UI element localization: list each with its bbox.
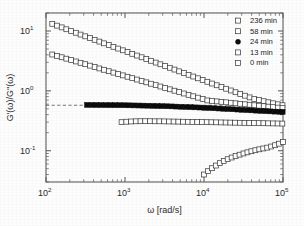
data-point	[158, 62, 163, 67]
data-point	[97, 39, 102, 44]
legend-label-2: 24 min	[250, 37, 273, 46]
data-point	[162, 119, 167, 124]
data-point	[55, 23, 60, 28]
data-point	[242, 120, 247, 125]
y-tick-label-2: 10-1	[20, 144, 36, 156]
data-point	[228, 120, 233, 125]
series-13-min	[119, 119, 285, 126]
data-point	[202, 105, 207, 110]
legend-label-4: 0 min	[250, 58, 269, 67]
data-point	[146, 103, 151, 108]
data-point	[257, 103, 262, 108]
data-point	[172, 88, 177, 93]
data-point	[256, 121, 261, 126]
data-point	[69, 29, 74, 34]
data-point	[127, 103, 132, 108]
data-point	[94, 103, 99, 108]
data-point	[50, 52, 55, 57]
data-point	[183, 105, 188, 110]
data-point	[106, 43, 111, 48]
data-point	[64, 56, 69, 61]
legend-label-1: 58 min	[250, 27, 273, 36]
data-point	[196, 76, 201, 81]
data-point	[218, 120, 223, 125]
data-point	[85, 102, 90, 107]
data-point	[103, 103, 108, 108]
figure-container: 10210310410510110010-1ω [rad/s]G'(ω)/G''…	[0, 0, 304, 226]
data-point	[89, 102, 94, 107]
data-point	[176, 119, 181, 124]
data-point	[148, 119, 153, 124]
data-point	[181, 119, 186, 124]
data-point	[83, 62, 88, 67]
data-point	[261, 121, 266, 126]
data-point	[266, 121, 271, 126]
data-point	[153, 83, 158, 88]
data-point	[261, 99, 266, 104]
data-point	[224, 100, 229, 105]
legend-marker-open	[236, 50, 241, 55]
data-point	[78, 32, 83, 37]
y-tick-label-1: 100	[20, 84, 34, 96]
data-point	[242, 93, 247, 98]
data-point	[280, 109, 285, 114]
data-point	[228, 88, 233, 93]
data-point	[136, 103, 141, 108]
data-point	[134, 77, 139, 82]
data-point	[270, 121, 275, 126]
data-point	[125, 50, 130, 55]
data-point	[197, 105, 202, 110]
data-point	[233, 90, 238, 95]
legend-marker-open	[236, 29, 241, 34]
data-point	[200, 97, 205, 102]
data-point	[200, 120, 205, 125]
data-point	[163, 64, 168, 69]
data-point	[69, 58, 74, 63]
data-point	[130, 51, 135, 56]
data-point	[150, 103, 155, 108]
data-point	[266, 104, 271, 109]
data-point	[141, 103, 146, 108]
data-point	[238, 101, 243, 106]
data-point	[261, 104, 266, 109]
data-point	[186, 92, 191, 97]
y-axis-title: G'(ω)/G''(ω)	[5, 74, 15, 122]
x-tick-label-1: 103	[117, 186, 131, 198]
data-point	[244, 108, 249, 113]
data-point	[254, 108, 259, 113]
data-point	[130, 76, 135, 81]
data-point	[257, 98, 262, 103]
data-point	[55, 53, 60, 58]
data-point	[108, 103, 113, 108]
legend-label-0: 236 min	[250, 16, 277, 25]
data-point	[235, 107, 240, 112]
data-point	[119, 120, 124, 125]
data-point	[116, 46, 121, 51]
data-point	[171, 119, 176, 124]
data-point	[87, 63, 92, 68]
data-point	[281, 140, 286, 145]
data-point	[59, 55, 64, 60]
data-point	[226, 107, 231, 112]
data-point	[92, 65, 97, 70]
x-tick-label-0: 102	[38, 186, 52, 198]
data-point	[193, 105, 198, 110]
legend-marker-filled	[236, 39, 241, 44]
data-point	[139, 78, 144, 83]
data-point	[97, 66, 102, 71]
data-point	[133, 119, 138, 124]
data-point	[111, 44, 116, 49]
data-point	[247, 120, 252, 125]
data-point	[166, 119, 171, 124]
data-point	[152, 119, 157, 124]
legend-marker-open	[236, 61, 241, 66]
data-point	[174, 104, 179, 109]
data-point	[210, 98, 215, 103]
data-point	[167, 65, 172, 70]
data-point	[124, 119, 129, 124]
data-point	[214, 120, 219, 125]
data-point	[211, 106, 216, 111]
data-point	[210, 81, 215, 86]
data-point	[233, 120, 238, 125]
data-point	[186, 72, 191, 77]
